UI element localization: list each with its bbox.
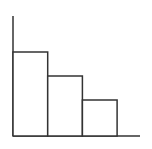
bar-chart (0, 0, 152, 149)
bars-group (13, 52, 117, 136)
bar-2 (48, 76, 83, 136)
bar-3 (82, 100, 117, 136)
bar-1 (13, 52, 48, 136)
